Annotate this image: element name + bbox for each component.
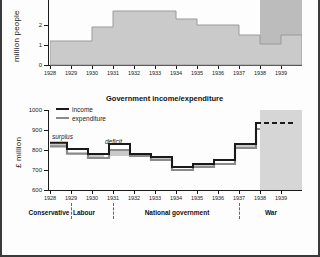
bottom-chart-x-tickmark	[197, 191, 198, 194]
bottom-chart-y-axis	[48, 110, 49, 190]
top-chart-x-tickmark	[155, 66, 156, 69]
top-chart-y-tick: 0	[28, 62, 42, 68]
bottom-chart-x-tick: 1937	[229, 195, 249, 201]
top-chart-x-tickmark	[176, 66, 177, 69]
top-chart-y-tick: 2	[28, 22, 42, 28]
top-chart-y-tick: 1	[28, 42, 42, 48]
top-chart-x-tickmark	[218, 66, 219, 69]
top-chart-x-tick: 1929	[61, 70, 81, 76]
bottom-chart-x-tickmark	[260, 191, 261, 194]
period-label-labour: Labour	[73, 209, 113, 216]
bottom-chart-x-tickmark	[92, 191, 93, 194]
top-chart-x-tick: 1928	[40, 70, 60, 76]
bottom-chart-x-tick: 1933	[145, 195, 165, 201]
top-chart-x-tickmark	[239, 66, 240, 69]
government-income-expenditure-chart: Government income/expenditure £ million …	[2, 90, 320, 257]
income-expenditure-plot	[50, 110, 302, 190]
bottom-chart-x-tickmark	[134, 191, 135, 194]
figure-frame: million people 2 1 0 1928 1929 1930	[0, 0, 320, 257]
top-chart-x-tick: 1934	[166, 70, 186, 76]
bottom-chart-x-tick: 1931	[103, 195, 123, 201]
top-chart-x-tick: 1931	[103, 70, 123, 76]
top-chart-y-axis	[48, 0, 49, 66]
top-chart-x-tick: 1936	[208, 70, 228, 76]
top-chart-x-tickmark	[50, 66, 51, 69]
bottom-chart-x-tickmark	[113, 191, 114, 194]
bottom-chart-x-tickmark	[71, 191, 72, 194]
top-chart-x-tick: 1933	[145, 70, 165, 76]
bottom-chart-y-tick: 900	[22, 127, 42, 133]
bottom-chart-x-tickmark	[155, 191, 156, 194]
top-chart-x-tickmark	[134, 66, 135, 69]
top-chart-x-tick: 1932	[124, 70, 144, 76]
unemployment-step-area	[50, 0, 302, 66]
top-chart-x-tickmark	[71, 66, 72, 69]
bottom-chart-x-tickmark	[176, 191, 177, 194]
unemployment-chart: million people 2 1 0 1928 1929 1930	[2, 0, 320, 88]
top-chart-x-tickmark	[281, 66, 282, 69]
bottom-chart-x-tickmark	[239, 191, 240, 194]
period-divider	[113, 203, 114, 219]
period-label-conservative: Conservative	[26, 209, 72, 216]
top-chart-x-tickmark	[113, 66, 114, 69]
top-chart-x-tick: 1930	[82, 70, 102, 76]
top-chart-x-tick: 1937	[229, 70, 249, 76]
top-chart-x-tick: 1938	[250, 70, 270, 76]
bottom-chart-x-tick: 1934	[166, 195, 186, 201]
top-chart-x-tickmark	[197, 66, 198, 69]
period-label-war: War	[241, 209, 301, 216]
bottom-chart-y-tick: 800	[22, 147, 42, 153]
top-chart-x-tickmark	[260, 66, 261, 69]
bottom-chart-x-tick: 1930	[82, 195, 102, 201]
bottom-chart-x-tick: 1929	[61, 195, 81, 201]
bottom-chart-y-tick: 700	[22, 167, 42, 173]
bottom-chart-x-tickmark	[218, 191, 219, 194]
top-chart-x-tick: 1935	[187, 70, 207, 76]
bottom-chart-y-tick: 600	[22, 187, 42, 193]
bottom-chart-x-tick: 1939	[271, 195, 291, 201]
bottom-chart-x-tick: 1928	[40, 195, 60, 201]
top-chart-x-tickmark	[92, 66, 93, 69]
period-divider	[239, 203, 240, 219]
bottom-chart-x-axis	[48, 190, 302, 191]
annotation-surplus: surplus	[52, 133, 73, 140]
bottom-chart-x-tickmark	[50, 191, 51, 194]
top-chart-x-tick: 1939	[271, 70, 291, 76]
bottom-chart-x-tickmark	[281, 191, 282, 194]
bottom-chart-x-tick: 1938	[250, 195, 270, 201]
bottom-chart-x-tick: 1932	[124, 195, 144, 201]
bottom-chart-y-tick: 1000	[22, 107, 42, 113]
period-label-national-government: National government	[115, 209, 239, 216]
bottom-chart-title: Government income/expenditure	[106, 94, 223, 103]
annotation-deficit: deficit	[105, 138, 122, 145]
bottom-chart-x-tick: 1936	[208, 195, 228, 201]
top-chart-y-axis-label: million people	[12, 10, 21, 62]
bottom-chart-x-tick: 1935	[187, 195, 207, 201]
